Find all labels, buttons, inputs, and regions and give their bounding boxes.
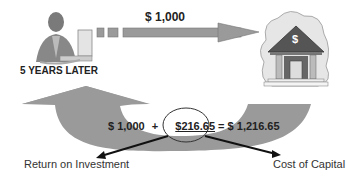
diagram-canvas [0,0,363,180]
equation: $ 1,000 + $216.65 = $ 1,216.65 [108,120,280,132]
person-at-computer-icon [36,12,92,64]
equation-principal: $ 1,000 [108,120,145,132]
person-caption: 5 YEARS LATER [20,65,98,76]
return-on-investment-label: Return on Investment [24,158,129,170]
equation-interest: $216.65 [175,120,215,132]
equation-total: $ 1,216.65 [228,120,280,132]
return-arrowhead [22,86,150,104]
equation-equals: = [218,120,224,132]
cost-of-capital-label: Cost of Capital [273,158,345,170]
top-arrow-label: $ 1,000 [145,10,185,24]
bank-icon [260,11,328,86]
equation-plus: + [152,120,158,132]
top-arrow [97,23,259,42]
bank-dollar-symbol: $ [292,33,298,45]
